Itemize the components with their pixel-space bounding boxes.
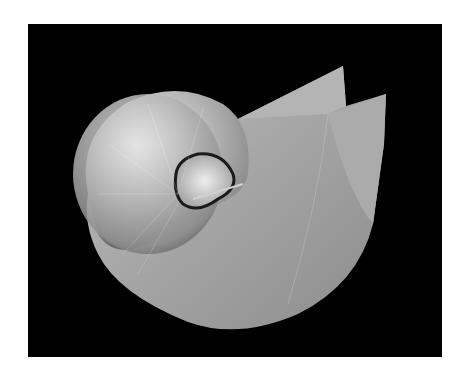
- photograph: [28, 24, 442, 357]
- nautilus-shell-illustration: [28, 24, 442, 357]
